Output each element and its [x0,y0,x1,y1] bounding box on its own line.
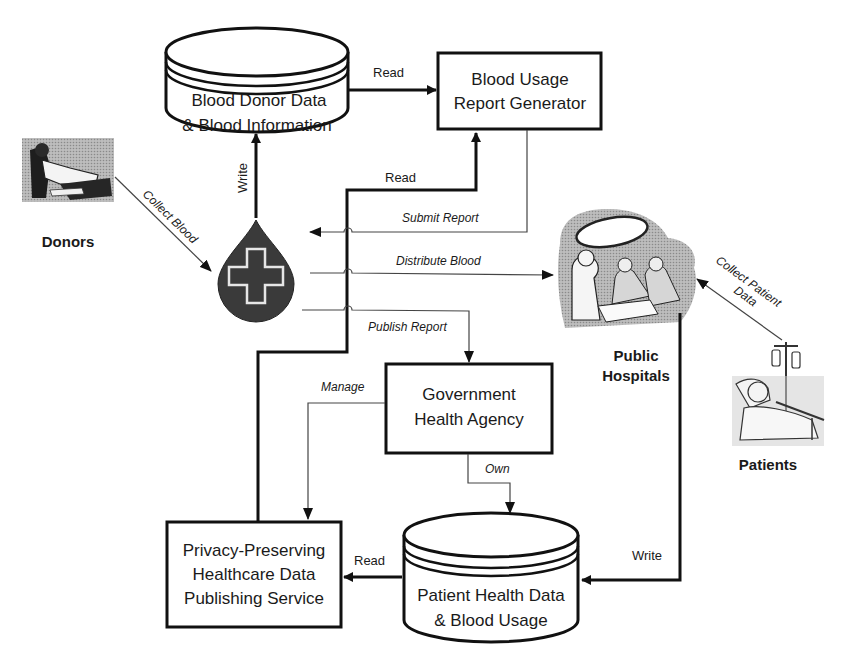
publishing-service-line1: Privacy-Preserving [183,541,326,560]
publishing-service-box: Privacy-Preserving Healthcare Data Publi… [167,522,341,627]
blood-donor-database: Blood Donor Data & Blood Information [166,28,348,135]
blood-usage-system-diagram: Blood Donor Data & Blood Information Blo… [0,0,845,663]
edge-submit-report-label: Submit Report [402,211,479,225]
report-gen-line1: Blood Usage [471,70,568,89]
report-generator-box: Blood Usage Report Generator [438,53,601,129]
patients-label: Patients [739,456,797,473]
edge-own-label: Own [485,462,510,476]
blood-drop-cross-icon [218,220,294,322]
edge-collect-blood-label: Collect Blood [140,187,201,246]
report-gen-line2: Report Generator [454,94,587,113]
gov-agency-line1: Government [422,385,516,404]
donor-person-icon [22,138,114,202]
edge-write-left-label: Write [235,163,250,193]
government-health-agency-box: Government Health Agency [386,364,552,453]
edge-read-mid-label: Read [385,170,416,185]
donor-db-line1: Blood Donor Data [191,91,327,110]
surgeons-operating-icon [558,209,696,328]
edge-publish-report [302,306,469,362]
hospitals-label-line1: Public [613,347,658,364]
patient-in-bed-icon [732,342,824,446]
donors-label: Donors [42,233,95,250]
gov-agency-line2: Health Agency [414,410,524,429]
donor-db-line2: & Blood Information [182,116,331,135]
patient-db-line2: & Blood Usage [434,611,547,630]
edge-manage [308,403,385,519]
edge-manage-label: Manage [321,380,365,394]
edge-write-right-label: Write [632,548,662,563]
edge-read-bottom-label: Read [354,553,385,568]
edge-publish-report-label: Publish Report [368,320,447,334]
edge-collect-blood [115,177,211,271]
patient-db-line1: Patient Health Data [417,586,565,605]
publishing-service-line3: Publishing Service [184,589,324,608]
hospitals-label-line2: Hospitals [602,367,670,384]
edge-distribute-blood-label: Distribute Blood [396,254,481,268]
patient-health-database: Patient Health Data & Blood Usage [404,513,578,642]
publishing-service-line2: Healthcare Data [193,565,316,584]
edge-read-top-label: Read [373,65,404,80]
